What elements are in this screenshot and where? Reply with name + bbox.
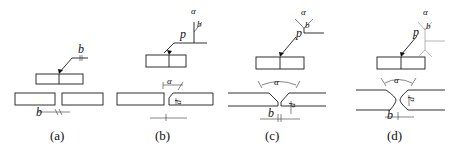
weld-symbol-a: b (36, 42, 88, 84)
panel-b: α b p α p (b) (117, 6, 213, 143)
symbol-p: p (179, 27, 186, 41)
symbol-b: b (426, 21, 431, 31)
weld-symbol-c: α b p (256, 7, 324, 69)
weld-joint-diagram: b b (a) α b p (0, 0, 460, 157)
symbol-alpha: α (301, 7, 306, 17)
weld-symbol-d: α b p (377, 7, 445, 69)
panel-c: α b p α p b (c) (228, 7, 326, 143)
weld-symbol-b: α b p (146, 6, 207, 67)
symbol-p: p (295, 26, 302, 40)
dim-p: p (408, 96, 418, 102)
symbol-alpha: α (191, 6, 196, 16)
caption-c: (c) (265, 128, 279, 143)
symbol-b: b (305, 20, 310, 30)
dim-alpha: α (274, 77, 279, 87)
caption-b: (b) (155, 128, 170, 143)
joint-section-b: α p (117, 76, 213, 121)
caption-d: (d) (387, 128, 402, 143)
joint-section-a: b (15, 93, 103, 119)
dim-b: b (36, 105, 42, 119)
joint-section-d: α p b (356, 75, 445, 122)
symbol-b: b (78, 42, 84, 56)
panel-a: b b (a) (15, 42, 103, 143)
dim-alpha: α (394, 75, 399, 85)
dim-b: b (387, 108, 393, 122)
symbol-b: b (197, 19, 202, 29)
dim-p: p (289, 102, 299, 108)
dim-p: p (175, 99, 185, 105)
panel-d: α b p α p b (d) (356, 7, 445, 143)
symbol-alpha: α (423, 7, 428, 17)
symbol-p: p (412, 25, 419, 39)
dim-alpha: α (167, 76, 172, 86)
joint-section-c: α p b (228, 77, 326, 122)
dim-b: b (268, 106, 274, 120)
caption-a: (a) (50, 128, 64, 143)
